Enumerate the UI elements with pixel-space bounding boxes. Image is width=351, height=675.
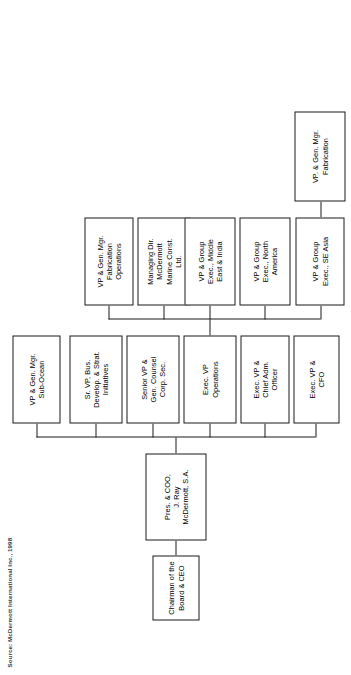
node-northamerica-label: VP & GroupExec., NorthAmerica: [251, 240, 279, 281]
node-bizdev[interactable]: Sr. VP, Bus.Develop. & Strat.Initiatives: [69, 335, 122, 423]
edge-to-northamerica: [264, 305, 265, 319]
edge-operations-stem: [209, 319, 210, 335]
edge-level3-spine: [36, 436, 315, 437]
node-admin[interactable]: Exec. VP &Chief Adm.Officer: [240, 335, 289, 423]
node-chairman-label: Chairman of theBoard & CEO: [166, 561, 184, 614]
edge-to-bizdev: [95, 423, 96, 437]
node-bizdev-label: Sr. VP, Bus.Develop. & Strat.Initiatives: [82, 351, 110, 408]
node-subocean-label: VP & Gen. Mgr.Sub-Ocean: [27, 353, 45, 405]
node-president-label: Pres. & COO,J. RayMcDermott, S.A.: [162, 469, 190, 524]
node-fabops[interactable]: VP & Gen. Mgr.FabricationOperations: [84, 217, 133, 305]
edge-to-operations: [209, 423, 210, 437]
edge-to-counsel: [152, 423, 153, 437]
edge-to-cfo: [315, 423, 316, 437]
org-chart-canvas: Source: McDermott International Inc., 19…: [0, 0, 351, 675]
edge-to-seasia: [320, 305, 321, 319]
node-marineconst[interactable]: Managing Dir.McDermottMarine Const.Ltd.: [137, 217, 190, 305]
node-seasia[interactable]: VP & GroupExec., SE Asia: [295, 217, 344, 305]
node-subocean[interactable]: VP & Gen. Mgr.Sub-Ocean: [12, 335, 60, 423]
node-admin-label: Exec. VP &Chief Adm.Officer: [251, 360, 279, 398]
node-counsel-label: Senior VP &Gen. CounselCorp. Sec.: [139, 356, 167, 402]
node-middleeast[interactable]: VP & GroupExec., MiddleEast & India: [184, 217, 235, 305]
node-middleeast-label: VP & GroupExec., MiddleEast & India: [196, 239, 224, 284]
node-operations[interactable]: Exec. VPOperations: [183, 335, 236, 423]
edge-chairman-president: [175, 540, 176, 555]
edge-seasia-fabrication: [320, 201, 321, 217]
edge-president-stem: [175, 437, 176, 453]
node-northamerica[interactable]: VP & GroupExec., NorthAmerica: [239, 217, 290, 305]
node-counsel[interactable]: Senior VP &Gen. CounselCorp. Sec.: [126, 335, 179, 423]
edge-level4-spine: [108, 318, 320, 319]
edge-to-subocean: [36, 423, 37, 437]
edge-to-marineconst: [163, 305, 164, 319]
edge-to-fabops: [108, 305, 109, 319]
edge-to-middleeast: [209, 305, 210, 319]
node-seasia-label: VP & GroupExec., SE Asia: [310, 236, 328, 285]
node-fabrication-label: VP. & Gen. Mgr.Fabrication: [310, 129, 328, 182]
node-chairman[interactable]: Chairman of theBoard & CEO: [152, 555, 199, 620]
edge-to-admin: [264, 423, 265, 437]
node-fabrication[interactable]: VP. & Gen. Mgr.Fabrication: [294, 111, 345, 201]
node-cfo[interactable]: Exec. VP &CFO: [293, 335, 339, 423]
node-operations-label: Exec. VPOperations: [200, 361, 218, 398]
node-marineconst-label: Managing Dir.McDermottMarine Const.Ltd.: [145, 238, 182, 285]
node-cfo-label: Exec. VP &CFO: [307, 360, 325, 398]
node-president[interactable]: Pres. & COO,J. RayMcDermott, S.A.: [145, 453, 206, 540]
node-fabops-label: VP & Gen. Mgr.FabricationOperations: [95, 235, 123, 287]
source-note: Source: McDermott International Inc., 19…: [5, 537, 12, 667]
